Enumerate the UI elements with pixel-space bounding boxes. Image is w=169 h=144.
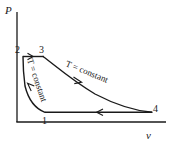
state-label-2: 2: [15, 44, 20, 55]
pv-diagram-figure: P v 2 3 1 4 T = constant: [0, 0, 169, 144]
x-axis-label: v: [146, 129, 151, 141]
state-label-4: 4: [153, 103, 158, 114]
y-axis-label: P: [4, 4, 12, 16]
curve-3-4-isotherm: [43, 57, 152, 113]
arrow-1-2: [28, 83, 35, 91]
state-label-1: 1: [42, 115, 47, 126]
right-isotherm-label: T = constant: [64, 59, 110, 85]
pv-diagram-canvas: P v 2 3 1 4 T = constant: [0, 0, 169, 144]
right-isotherm-annotation: T = constant: [64, 59, 110, 85]
process-3-to-4: [43, 57, 152, 113]
state-label-3: 3: [39, 44, 44, 55]
